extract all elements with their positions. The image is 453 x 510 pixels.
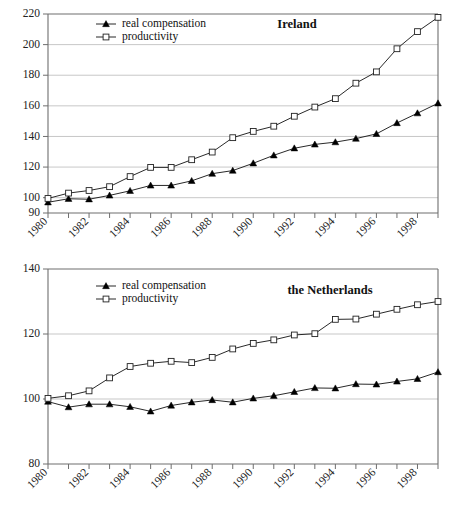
x-tick-label: 1998: [394, 466, 419, 491]
chart-figure: 9010012014016018020022019801982198419861…: [0, 0, 453, 510]
legend-marker-productivity: [103, 34, 109, 40]
y-tick-label: 180: [23, 68, 41, 80]
y-tick-label: 140: [23, 130, 41, 142]
x-tick-label: 1992: [271, 466, 296, 491]
legend-label: real compensation: [122, 17, 206, 30]
chart-title: the Netherlands: [287, 283, 372, 297]
x-tick-label: 1998: [394, 215, 419, 240]
x-tick-label: 1986: [148, 466, 173, 491]
chart-legend: real compensationproductivity: [96, 279, 206, 305]
data-point-marker: [148, 164, 154, 170]
data-point-marker: [168, 164, 174, 170]
y-axis-labels: 90100120140160180200220: [23, 7, 48, 218]
y-tick-label: 100: [23, 191, 41, 203]
legend-marker-productivity: [103, 296, 109, 302]
x-tick-label: 1982: [66, 215, 91, 240]
y-tick-label: 160: [23, 99, 41, 111]
series-productivity: [45, 299, 441, 402]
data-point-marker: [107, 184, 113, 190]
chart-legend: real compensationproductivity: [96, 17, 206, 43]
gridlines: [48, 45, 438, 198]
data-point-marker: [230, 346, 236, 352]
legend-label: real compensation: [122, 279, 206, 292]
x-tick-label: 1994: [312, 466, 337, 491]
y-tick-label: 200: [23, 38, 41, 50]
data-point-marker: [374, 69, 380, 75]
data-point-marker: [435, 100, 442, 106]
axis-frame: [48, 14, 438, 213]
data-point-marker: [127, 364, 133, 370]
chart-title: Ireland: [277, 17, 316, 31]
chart-panel-ireland: 9010012014016018020022019801982198419861…: [0, 0, 453, 255]
series-productivity: [45, 14, 441, 201]
y-tick-label: 120: [23, 160, 41, 172]
data-point-marker: [415, 302, 421, 308]
data-point-marker: [394, 120, 401, 126]
data-point-marker: [291, 113, 297, 119]
data-point-marker: [435, 299, 441, 305]
x-tick-label: 1996: [353, 215, 378, 240]
data-point-marker: [353, 80, 359, 86]
data-point-marker: [209, 355, 215, 361]
data-point-marker: [230, 135, 236, 141]
data-point-marker: [435, 14, 441, 20]
y-tick-label: 120: [23, 327, 41, 339]
y-tick-label: 140: [23, 262, 41, 274]
data-point-marker: [66, 190, 72, 196]
data-point-marker: [332, 316, 338, 322]
x-tick-label: 1984: [107, 215, 132, 240]
data-point-marker: [127, 174, 133, 180]
x-tick-label: 1982: [66, 466, 91, 491]
data-point-marker: [291, 332, 297, 338]
chart-panel-netherlands: 8010012014019801982198419861988199019921…: [0, 258, 453, 510]
data-point-marker: [250, 129, 256, 135]
data-point-marker: [250, 160, 257, 166]
series-real-compensation: [45, 369, 442, 414]
x-tick-label: 1986: [148, 215, 173, 240]
data-point-marker: [86, 188, 92, 194]
data-point-marker: [373, 130, 380, 136]
chart-canvas: 9010012014016018020022019801982198419861…: [0, 0, 453, 255]
data-point-marker: [45, 395, 51, 401]
x-tick-label: 1988: [189, 215, 214, 240]
data-point-marker: [86, 388, 92, 394]
y-tick-label: 220: [23, 7, 41, 19]
data-point-marker: [209, 397, 216, 403]
data-point-marker: [312, 331, 318, 337]
x-tick-label: 1990: [230, 215, 255, 240]
legend-label: productivity: [122, 292, 178, 305]
data-point-marker: [353, 316, 359, 322]
x-tick-label: 1994: [312, 215, 337, 240]
data-point-marker: [189, 360, 195, 366]
data-point-marker: [168, 358, 174, 364]
data-point-marker: [394, 306, 400, 312]
data-point-marker: [209, 149, 215, 155]
x-tick-label: 1980: [25, 466, 50, 491]
data-point-marker: [189, 157, 195, 163]
series-real-compensation: [45, 100, 442, 205]
y-axis-labels: 80100120140: [23, 262, 48, 469]
data-point-marker: [66, 393, 72, 399]
data-point-marker: [394, 46, 400, 52]
gridlines: [48, 334, 438, 399]
data-point-marker: [415, 29, 421, 35]
x-tick-label: 1984: [107, 466, 132, 491]
data-point-marker: [271, 123, 277, 129]
data-point-marker: [374, 311, 380, 317]
data-point-marker: [107, 375, 113, 381]
data-point-marker: [332, 96, 338, 102]
x-axis-labels: 1980198219841986198819901992199419961998: [25, 215, 419, 240]
x-tick-label: 1990: [230, 466, 255, 491]
data-point-marker: [414, 110, 421, 116]
data-point-marker: [45, 196, 51, 202]
x-tick-label: 1988: [189, 466, 214, 491]
y-tick-label: 100: [23, 392, 41, 404]
data-point-marker: [148, 360, 154, 366]
chart-canvas: 8010012014019801982198419861988199019921…: [0, 258, 453, 510]
x-tick-label: 1980: [25, 215, 50, 240]
data-point-marker: [435, 369, 442, 375]
x-tick-label: 1996: [353, 466, 378, 491]
data-point-marker: [250, 341, 256, 347]
x-tick-label: 1992: [271, 215, 296, 240]
data-point-marker: [312, 104, 318, 110]
